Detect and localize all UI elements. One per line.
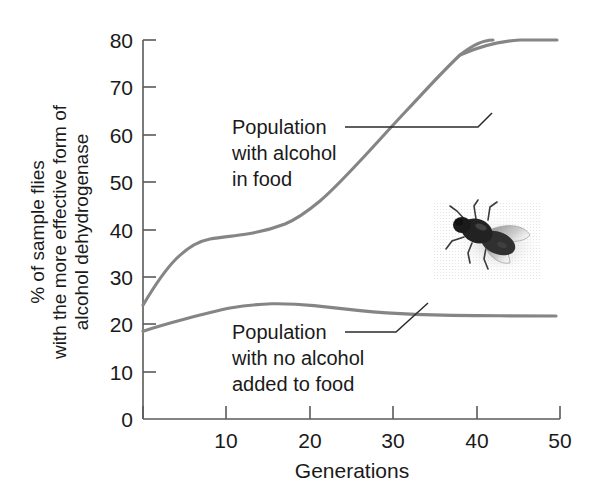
y-tick-label-10: 10	[110, 361, 133, 384]
upper-annotation-line-1: Population	[232, 116, 327, 138]
x-axis-title: Generations	[295, 459, 409, 482]
upper-annotation-line-2: with alcohol	[231, 142, 337, 164]
upper-annotation-line-3: in food	[232, 168, 292, 190]
y-tick-label-20: 20	[110, 313, 133, 336]
upper-annotation-leader	[345, 113, 492, 127]
lower-annotation-leader	[345, 303, 428, 332]
x-tick-labels: 10 20 30 40 50	[214, 429, 571, 452]
x-tick-label-50: 50	[548, 429, 571, 452]
upper-annotation: Population with alcohol in food	[231, 116, 337, 190]
y-axis-ticks	[143, 40, 156, 372]
y-axis-title: % of sample flies with the more effectiv…	[27, 104, 92, 360]
x-tick-label-30: 30	[381, 429, 404, 452]
y-tick-label-70: 70	[110, 76, 133, 99]
lower-annotation-line-2: with no alcohol	[231, 347, 364, 369]
x-axis-ticks	[143, 406, 560, 419]
y-tick-label-30: 30	[110, 266, 133, 289]
y-axis-title-line-1: % of sample flies	[27, 160, 48, 304]
lower-annotation: Population with no alcohol added to food	[231, 321, 364, 395]
y-tick-label-60: 60	[110, 124, 133, 147]
y-tick-label-80: 80	[110, 29, 133, 52]
x-tick-label-40: 40	[465, 429, 488, 452]
y-axis-title-line-2: with the more effective form of	[49, 104, 70, 360]
line-chart: 80 70 60 50 40 30 20 10 0 10 20 30 40 50…	[0, 0, 600, 492]
y-tick-labels: 80 70 60 50 40 30 20 10 0	[110, 29, 133, 431]
series-line-alcohol-in-food-tail	[460, 40, 557, 55]
x-tick-label-10: 10	[214, 429, 237, 452]
y-tick-label-0: 0	[121, 408, 133, 431]
y-tick-label-40: 40	[110, 219, 133, 242]
lower-annotation-line-1: Population	[232, 321, 327, 343]
series-line-alcohol-in-food	[143, 40, 493, 305]
lower-annotation-line-3: added to food	[232, 373, 354, 395]
figure-container: 80 70 60 50 40 30 20 10 0 10 20 30 40 50…	[0, 0, 600, 492]
y-tick-label-50: 50	[110, 171, 133, 194]
y-axis-title-line-3: alcohol dehydrogenase	[71, 134, 92, 331]
series-line-no-alcohol	[143, 304, 556, 331]
x-tick-label-20: 20	[298, 429, 321, 452]
